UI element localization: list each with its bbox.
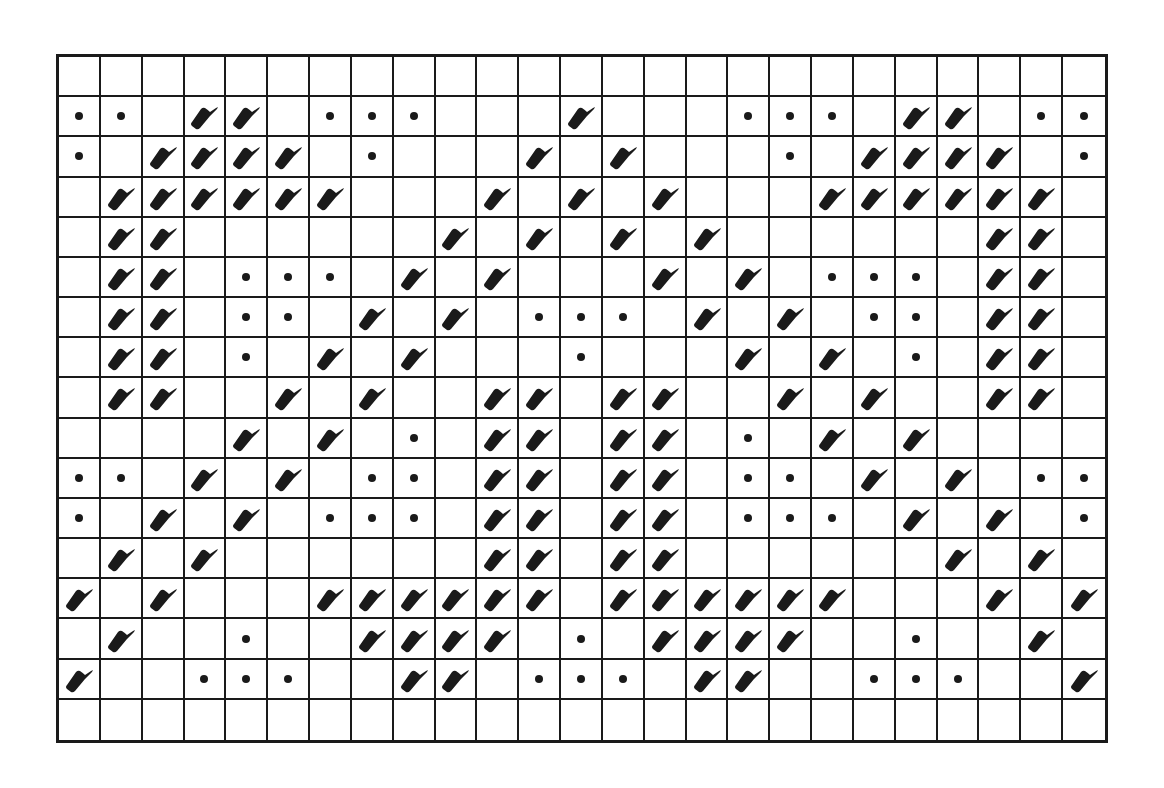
grid-cell-r15-c7 xyxy=(352,660,394,700)
grid-cell-r1-c20 xyxy=(896,97,938,137)
grid-cell-r8-c8 xyxy=(394,378,436,418)
grid-cell-r7-c18 xyxy=(812,338,854,378)
grid-cell-r5-c22 xyxy=(979,258,1021,298)
leaf-symbol-icon xyxy=(105,303,137,331)
grid-cell-r4-c11 xyxy=(519,218,561,258)
grid-cell-r16-c5 xyxy=(268,700,310,740)
leaf-symbol-icon xyxy=(398,263,430,291)
grid-cell-r15-c15 xyxy=(687,660,729,700)
grid-cell-r7-c3 xyxy=(185,338,227,378)
grid-cell-r1-c19 xyxy=(854,97,896,137)
leaf-symbol-icon xyxy=(607,584,639,612)
grid-cell-r6-c7 xyxy=(352,298,394,338)
grid-cell-r3-c19 xyxy=(854,178,896,218)
dot-symbol-icon xyxy=(912,675,920,683)
dot-symbol-icon xyxy=(284,675,292,683)
leaf-symbol-icon xyxy=(983,504,1015,532)
dot-symbol-icon xyxy=(284,313,292,321)
grid-cell-r15-c13 xyxy=(603,660,645,700)
grid-cell-r13-c10 xyxy=(477,579,519,619)
grid-cell-r11-c19 xyxy=(854,499,896,539)
dot-symbol-icon xyxy=(326,273,334,281)
dot-symbol-icon xyxy=(410,112,418,120)
leaf-symbol-icon xyxy=(272,142,304,170)
grid-cell-r6-c21 xyxy=(938,298,980,338)
grid-cell-r7-c8 xyxy=(394,338,436,378)
grid-cell-r13-c1 xyxy=(101,579,143,619)
grid-cell-r5-c3 xyxy=(185,258,227,298)
grid-cell-r6-c18 xyxy=(812,298,854,338)
grid-cell-r6-c1 xyxy=(101,298,143,338)
leaf-symbol-icon xyxy=(1025,263,1057,291)
grid-cell-r12-c8 xyxy=(394,539,436,579)
grid-cell-r0-c8 xyxy=(394,57,436,97)
grid-cell-r0-c1 xyxy=(101,57,143,97)
grid-cell-r15-c17 xyxy=(770,660,812,700)
leaf-symbol-icon xyxy=(732,665,764,693)
grid-cell-r11-c3 xyxy=(185,499,227,539)
leaf-symbol-icon xyxy=(105,544,137,572)
grid-cell-r14-c1 xyxy=(101,619,143,659)
grid-cell-r4-c20 xyxy=(896,218,938,258)
grid-cell-r3-c14 xyxy=(645,178,687,218)
leaf-symbol-icon xyxy=(858,383,890,411)
grid-cell-r8-c5 xyxy=(268,378,310,418)
leaf-symbol-icon xyxy=(439,625,471,653)
grid-cell-r4-c3 xyxy=(185,218,227,258)
dot-symbol-icon xyxy=(535,313,543,321)
grid-cell-r11-c7 xyxy=(352,499,394,539)
leaf-symbol-icon xyxy=(983,263,1015,291)
dot-symbol-icon xyxy=(1037,474,1045,482)
leaf-symbol-icon xyxy=(147,343,179,371)
grid-cell-r7-c19 xyxy=(854,338,896,378)
dot-symbol-icon xyxy=(410,514,418,522)
leaf-symbol-icon xyxy=(481,544,513,572)
grid-cell-r0-c5 xyxy=(268,57,310,97)
grid-cell-r1-c21 xyxy=(938,97,980,137)
leaf-symbol-icon xyxy=(816,584,848,612)
grid-cell-r13-c7 xyxy=(352,579,394,619)
grid-cell-r0-c21 xyxy=(938,57,980,97)
grid-cell-r7-c14 xyxy=(645,338,687,378)
leaf-symbol-icon xyxy=(439,223,471,251)
dot-symbol-icon xyxy=(1080,514,1088,522)
grid-cell-r8-c6 xyxy=(310,378,352,418)
leaf-symbol-icon xyxy=(816,424,848,452)
grid-cell-r8-c0 xyxy=(59,378,101,418)
grid-cell-r6-c12 xyxy=(561,298,603,338)
leaf-symbol-icon xyxy=(147,142,179,170)
grid-cell-r1-c18 xyxy=(812,97,854,137)
grid-cell-r2-c3 xyxy=(185,137,227,177)
grid-cell-r10-c13 xyxy=(603,459,645,499)
grid-cell-r7-c12 xyxy=(561,338,603,378)
dot-symbol-icon xyxy=(284,273,292,281)
grid-cell-r12-c1 xyxy=(101,539,143,579)
leaf-symbol-icon xyxy=(481,625,513,653)
grid-cell-r8-c23 xyxy=(1021,378,1063,418)
grid-cell-r1-c7 xyxy=(352,97,394,137)
grid-cell-r1-c3 xyxy=(185,97,227,137)
grid-cell-r4-c15 xyxy=(687,218,729,258)
grid-cell-r10-c15 xyxy=(687,459,729,499)
leaf-symbol-icon xyxy=(983,223,1015,251)
leaf-symbol-icon xyxy=(481,424,513,452)
leaf-symbol-icon xyxy=(607,223,639,251)
grid-cell-r5-c4 xyxy=(226,258,268,298)
dot-symbol-icon xyxy=(828,112,836,120)
grid-cell-r1-c10 xyxy=(477,97,519,137)
grid-cell-r8-c21 xyxy=(938,378,980,418)
grid-cell-r4-c21 xyxy=(938,218,980,258)
grid-cell-r12-c18 xyxy=(812,539,854,579)
grid-cell-r11-c21 xyxy=(938,499,980,539)
leaf-symbol-icon xyxy=(63,584,95,612)
grid-cell-r6-c17 xyxy=(770,298,812,338)
dot-symbol-icon xyxy=(828,514,836,522)
grid-cell-r3-c22 xyxy=(979,178,1021,218)
grid-cell-r10-c23 xyxy=(1021,459,1063,499)
dot-symbol-icon xyxy=(1037,112,1045,120)
grid-cell-r4-c6 xyxy=(310,218,352,258)
grid-cell-r9-c10 xyxy=(477,419,519,459)
grid-cell-r16-c23 xyxy=(1021,700,1063,740)
grid-cell-r2-c18 xyxy=(812,137,854,177)
grid-cell-r13-c12 xyxy=(561,579,603,619)
